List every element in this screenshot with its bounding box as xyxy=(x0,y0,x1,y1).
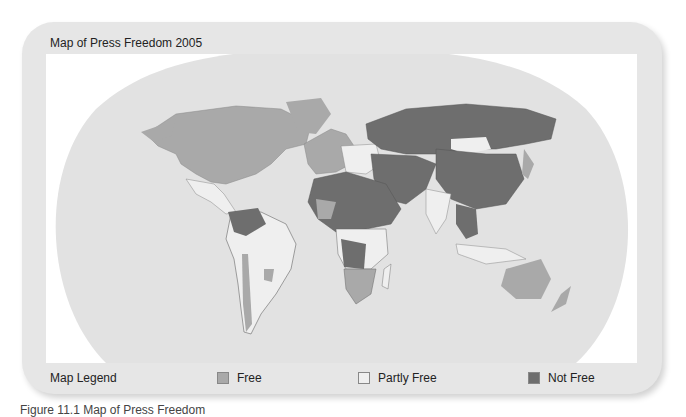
world-map xyxy=(46,54,637,363)
legend-label-partly-free: Partly Free xyxy=(378,371,437,385)
partly-free-swatch-icon xyxy=(358,372,370,384)
map-legend: Map Legend Free Partly Free Not Free xyxy=(22,368,662,390)
region-congo xyxy=(341,239,366,269)
free-swatch-icon xyxy=(217,372,229,384)
legend-item-free: Free xyxy=(217,371,262,385)
legend-label-not-free: Not Free xyxy=(548,371,595,385)
legend-item-not-free: Not Free xyxy=(528,371,595,385)
map-title: Map of Press Freedom 2005 xyxy=(50,36,202,50)
not-free-swatch-icon xyxy=(528,372,540,384)
legend-label-free: Free xyxy=(237,371,262,385)
figure-caption: Figure 11.1 Map of Press Freedom xyxy=(20,403,205,417)
legend-item-partly-free: Partly Free xyxy=(358,371,437,385)
legend-title: Map Legend xyxy=(50,371,117,385)
map-panel xyxy=(46,54,637,363)
